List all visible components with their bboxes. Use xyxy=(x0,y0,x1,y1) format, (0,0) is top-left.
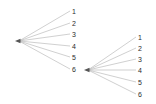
node-label-left-fan-3: 3 xyxy=(72,31,76,38)
node-label-left-fan-1: 1 xyxy=(72,8,76,15)
node-label-right-fan-5: 5 xyxy=(138,79,142,86)
node-label-right-fan-3: 3 xyxy=(138,56,142,63)
edge-right-fan-1 xyxy=(88,37,136,70)
node-label-right-fan-2: 2 xyxy=(138,45,142,52)
arrowhead-right-fan xyxy=(84,68,90,73)
node-label-left-fan-4: 4 xyxy=(72,43,76,50)
edge-right-fan-2 xyxy=(88,48,136,70)
diagram-canvas: 123456123456 xyxy=(0,0,156,104)
node-label-right-fan-4: 4 xyxy=(138,67,142,74)
edge-left-fan-3 xyxy=(19,34,70,41)
node-label-left-fan-6: 6 xyxy=(72,66,76,73)
edge-layer xyxy=(0,0,156,104)
edge-right-fan-5 xyxy=(88,70,136,82)
node-label-right-fan-1: 1 xyxy=(138,34,142,41)
edge-right-fan-6 xyxy=(88,70,136,94)
node-label-right-fan-6: 6 xyxy=(138,91,142,98)
edge-right-fan-3 xyxy=(88,59,136,70)
arrowheads-group xyxy=(15,39,90,73)
node-label-left-fan-5: 5 xyxy=(72,54,76,61)
edges-group xyxy=(19,11,136,94)
node-label-left-fan-2: 2 xyxy=(72,20,76,27)
arrowhead-left-fan xyxy=(15,39,21,44)
